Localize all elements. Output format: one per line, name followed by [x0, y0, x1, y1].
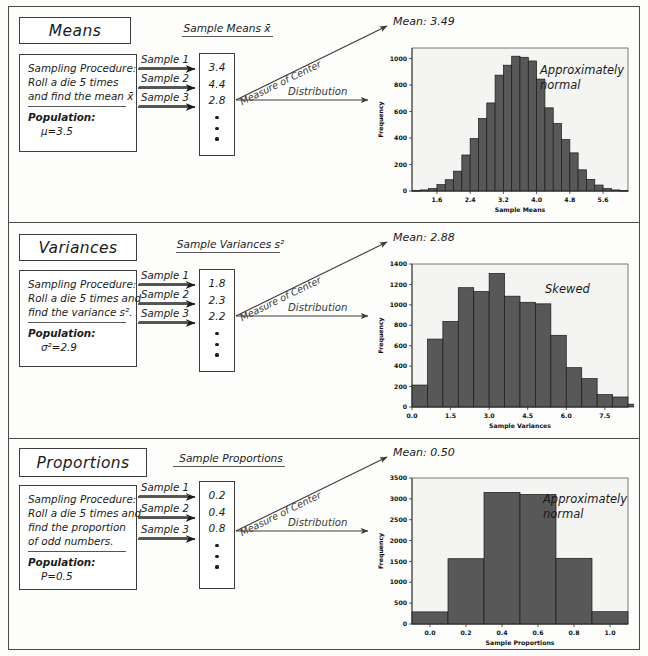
sample-label-1: Sample 1	[141, 482, 189, 493]
sample-underline-1	[139, 283, 189, 284]
population-label: Population:	[28, 326, 128, 340]
histogram-bar	[478, 118, 486, 191]
y-tick-label: 3000	[390, 495, 408, 502]
x-tick-label: 3.0	[484, 412, 496, 419]
shape-note-means: Approximately normal	[540, 63, 645, 93]
histogram-bar	[448, 559, 484, 624]
histogram-bar	[553, 123, 561, 191]
histogram-bar	[520, 302, 535, 407]
x-tick-label: 6.0	[561, 412, 573, 419]
x-tick-label: 5.6	[598, 196, 609, 203]
ellipsis-dot	[215, 555, 218, 558]
histogram-bar	[495, 75, 503, 191]
procedure-rule	[28, 322, 126, 323]
histogram-bar	[595, 185, 603, 191]
mean-label-3: Mean: 0.50	[393, 446, 455, 459]
histogram-bar	[487, 103, 495, 191]
x-axis-title: Sample Means	[495, 206, 546, 214]
y-tick-label: 400	[394, 362, 408, 369]
histogram-bar	[578, 170, 586, 191]
procedure-line: find the proportion	[28, 520, 128, 534]
y-axis-title: Frequency	[377, 317, 385, 353]
x-tick-label: 3.2	[498, 196, 509, 203]
mean-label-2: Mean: 2.88	[393, 231, 455, 244]
y-tick-label: 400	[394, 134, 408, 141]
x-axis-title: Sample Proportions	[486, 639, 555, 647]
value-item: 1.8	[209, 275, 226, 292]
histogram-bar	[462, 155, 470, 191]
y-tick-label: 200	[394, 383, 408, 390]
y-tick-label: 2500	[390, 516, 408, 523]
sample-underline-2	[139, 302, 189, 303]
histogram-bar	[505, 296, 520, 407]
histogram-bar	[520, 57, 528, 191]
x-axis-title: Sample Variances	[489, 422, 551, 430]
y-tick-label: 1000	[390, 578, 408, 585]
figure-root: Means Sampling Procedure: Roll a die 5 t…	[0, 0, 648, 656]
x-tick-label: 0.0	[407, 412, 419, 419]
histogram-bar	[503, 65, 511, 191]
procedure-rule	[28, 551, 126, 552]
procedure-line: find the variance s².	[28, 305, 128, 319]
values-box-variances: 1.8 2.3 2.2	[199, 269, 235, 372]
value-item: 2.2	[209, 308, 226, 325]
x-tick-label: 0.0	[425, 629, 437, 636]
panel-title-proportions: Proportions	[19, 448, 147, 477]
sample-label-3: Sample 3	[141, 524, 189, 535]
y-tick-label: 1000	[390, 301, 408, 308]
distribution-label-3: Distribution	[288, 517, 347, 528]
histogram-bar	[570, 153, 578, 191]
y-axis-title: Frequency	[377, 533, 385, 569]
value-item: 0.4	[209, 504, 226, 521]
histogram-bar	[427, 339, 442, 407]
values-box-proportions: 0.2 0.4 0.8	[199, 481, 235, 589]
histogram-bar	[566, 368, 581, 407]
histogram-bar	[412, 612, 448, 624]
x-tick-label: 0.4	[497, 629, 509, 636]
histogram-bar	[528, 61, 536, 191]
population-value: σ²=2.9	[28, 340, 128, 354]
histogram-bar	[489, 273, 504, 407]
histogram-bar	[592, 612, 628, 624]
column-header-rule-proportions	[173, 466, 285, 467]
sample-underline-3	[139, 537, 189, 538]
y-tick-label: 0	[403, 187, 408, 194]
value-item: 2.3	[209, 292, 226, 309]
sample-label-2: Sample 2	[141, 503, 189, 514]
sample-label-1: Sample 1	[141, 270, 189, 281]
histogram-bar	[512, 56, 520, 191]
histogram-bar	[551, 335, 566, 407]
ellipsis-dot	[215, 332, 218, 335]
y-tick-label: 800	[394, 81, 408, 88]
y-tick-label: 0	[403, 620, 408, 627]
histogram-bar	[586, 179, 594, 191]
histogram-bar	[545, 108, 553, 191]
y-axis-title: Frequency	[377, 101, 385, 137]
histogram-bar	[437, 185, 445, 191]
sample-underline-3	[139, 321, 189, 322]
sample-label-2: Sample 2	[141, 289, 189, 300]
x-tick-label: 1.6	[431, 196, 442, 203]
histogram-bar	[597, 395, 612, 407]
y-tick-label: 600	[394, 108, 408, 115]
histogram-bar	[537, 79, 545, 191]
y-tick-label: 1000	[390, 55, 408, 62]
y-tick-label: 3500	[390, 474, 408, 481]
x-tick-label: 4.0	[531, 196, 543, 203]
sample-underline-2	[139, 516, 189, 517]
procedure-line: Sampling Procedure:	[28, 492, 128, 506]
panel-title-proportions-label: Proportions	[36, 454, 129, 472]
population-label: Population:	[28, 555, 128, 569]
histogram-bar	[412, 385, 427, 407]
ellipsis-dot	[215, 565, 218, 568]
x-tick-label: 7.5	[599, 412, 610, 419]
column-header-proportions: Sample Proportions	[168, 452, 294, 464]
procedure-line: Roll a die 5 times and	[28, 506, 128, 520]
panel-title-variances: Variances	[19, 234, 137, 261]
sample-label-3: Sample 3	[141, 308, 189, 319]
histogram-bar	[458, 288, 473, 407]
panel-title-variances-label: Variances	[39, 239, 118, 257]
y-tick-label: 1500	[390, 558, 408, 565]
shape-note-proportions: Approximately normal	[543, 492, 648, 522]
y-tick-label: 1400	[390, 260, 408, 267]
